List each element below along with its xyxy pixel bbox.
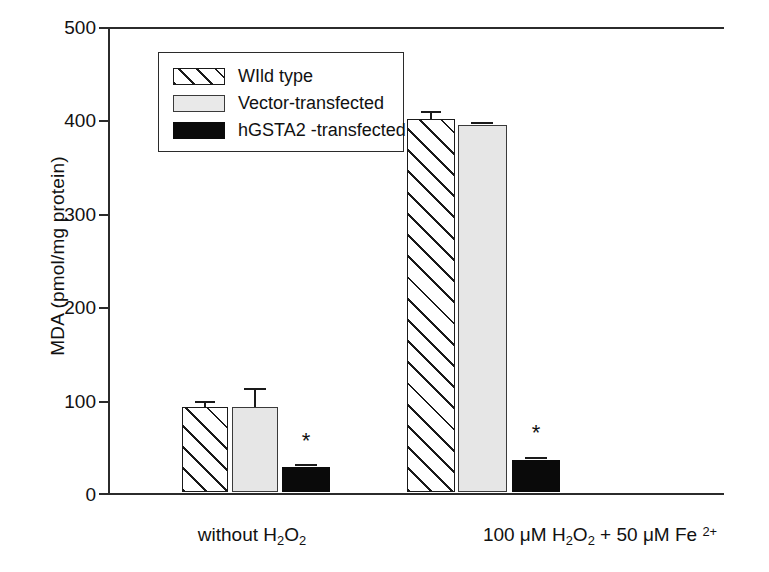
x-axis-line: [108, 493, 724, 495]
bar-wild-type-h2o2-fe: [407, 119, 455, 492]
bar-vector-without-h2o2: [232, 407, 278, 492]
significance-asterisk-hgsta2-h2o2-fe: *: [526, 422, 546, 444]
legend-label-vector-transfected: Vector-transfected: [238, 93, 384, 114]
y-tick-label-500: 500: [38, 18, 96, 37]
y-tick-label-200: 200: [38, 298, 96, 317]
y-tick-mark-0: [99, 493, 108, 495]
errorbar-cap-hgsta2-h2o2-fe: [525, 457, 547, 459]
bar-vector-h2o2-fe: [458, 125, 507, 492]
y-tick-label-400: 400: [38, 111, 96, 130]
plot-top-border: [108, 27, 724, 29]
legend-item-wild-type: WIld type: [173, 67, 313, 86]
x-category-label-without-h2o2: without H2O2: [152, 524, 352, 548]
y-tick-label-300: 300: [38, 205, 96, 224]
errorbar-cap-hgsta2-without-h2o2: [295, 464, 317, 466]
legend-item-hgsta2-transfected: hGSTA2 -transfected: [173, 121, 406, 140]
hatched-swatch-icon: [173, 68, 225, 85]
bar-hgsta2-without-h2o2: [282, 467, 330, 492]
errorbar-cap-wild-type-h2o2-fe: [421, 111, 441, 113]
y-tick-mark-100: [99, 401, 108, 403]
significance-asterisk-hgsta2-without-h2o2: *: [296, 430, 316, 452]
legend: WIld type Vector-transfected hGSTA2 -tra…: [158, 52, 404, 152]
x-category-label-h2o2-fe: 100 μM H2O2 + 50 μM Fe 2+: [455, 524, 745, 548]
bar-wild-type-without-h2o2: [182, 407, 228, 492]
bar-chart-figure: MDA (pmol/mg protein) 500 400 300 200 10…: [0, 0, 769, 572]
y-tick-label-0: 0: [38, 485, 96, 504]
y-tick-mark-500: [99, 27, 108, 29]
y-tick-mark-400: [99, 120, 108, 122]
black-swatch-icon: [173, 122, 225, 139]
y-tick-label-100: 100: [38, 392, 96, 411]
legend-item-vector-transfected: Vector-transfected: [173, 94, 384, 113]
errorbar-wild-type-h2o2-fe: [430, 112, 432, 119]
y-tick-mark-200: [99, 307, 108, 309]
errorbar-cap-vector-h2o2-fe: [471, 122, 493, 124]
legend-label-hgsta2-transfected: hGSTA2 -transfected: [238, 120, 406, 141]
errorbar-vector-without-h2o2: [254, 389, 256, 407]
y-tick-mark-300: [99, 214, 108, 216]
errorbar-cap-wild-type-without-h2o2: [195, 401, 215, 403]
grey-swatch-icon: [173, 95, 225, 112]
legend-label-wild-type: WIld type: [238, 66, 313, 87]
bar-hgsta2-h2o2-fe: [512, 460, 560, 492]
errorbar-cap-vector-without-h2o2: [244, 388, 266, 390]
y-axis-line: [108, 27, 110, 494]
